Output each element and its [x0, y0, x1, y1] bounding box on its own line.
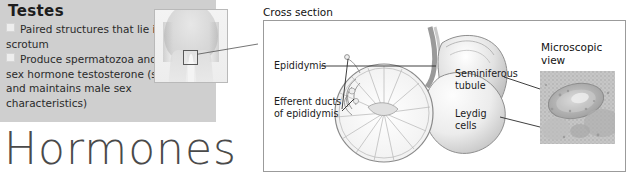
micrograph-art — [540, 71, 615, 144]
label-leydig-cells: Leydig cells — [455, 108, 487, 133]
right-shadow — [209, 22, 219, 62]
left-shadow — [163, 22, 173, 62]
slide-root: Testes Paired structures that lie in the… — [0, 0, 634, 177]
bullet-square-icon — [6, 53, 15, 62]
bullet-square-icon — [6, 23, 15, 32]
cross-section-panel: Epididymis Efferent ducts of epididymis … — [263, 20, 626, 172]
label-efferent-ducts: Efferent ducts of epididymis — [274, 96, 341, 121]
label-seminiferous-tubule: Seminiferous tubule — [455, 68, 518, 93]
panel-title: Testes — [8, 2, 64, 20]
seminiferous-tubule-micrograph — [540, 71, 615, 144]
page-title: Hormones — [4, 126, 237, 172]
cross-section-caption: Cross section — [263, 6, 333, 18]
microscopic-view-caption: Microscopic view — [541, 41, 602, 67]
detail-connector-line — [193, 44, 263, 56]
label-epididymis: Epididymis — [274, 60, 326, 72]
